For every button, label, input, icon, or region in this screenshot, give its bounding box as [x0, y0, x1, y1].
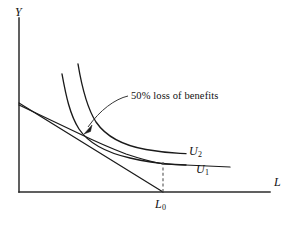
- u1-subscript: 1: [205, 168, 209, 177]
- u1-base: U: [196, 162, 205, 176]
- annotation-leader-line: [88, 96, 128, 127]
- curve-label-u1: U1: [196, 163, 209, 177]
- figure-canvas: [0, 0, 293, 225]
- l0-base: L: [155, 197, 162, 211]
- x-axis-tick-label-l0: L0: [155, 198, 166, 212]
- indifference-curve-u1: [62, 74, 186, 165]
- l0-subscript: 0: [162, 203, 166, 212]
- curve-label-u2: U2: [189, 145, 202, 159]
- annotation-text: 50% loss of benefits: [131, 91, 218, 102]
- indifference-curve-figure: Y L L0 U2 U1 50% loss of benefits: [0, 0, 293, 225]
- u2-subscript: 2: [198, 150, 202, 159]
- x-axis-label: L: [274, 176, 281, 188]
- budget-line-gross: [19, 103, 163, 192]
- y-axis-label: Y: [15, 6, 22, 18]
- u2-base: U: [189, 144, 198, 158]
